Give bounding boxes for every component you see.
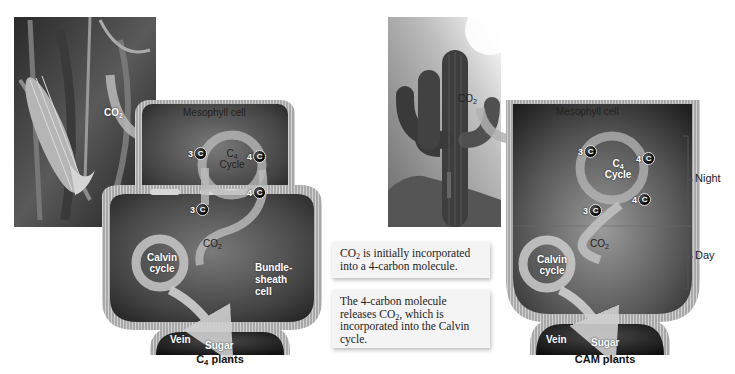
c4-badge-4c-bottom: 4C	[247, 186, 266, 199]
c4-cycle-label: C4 Cycle	[212, 148, 252, 170]
cam-badge-3c-top: 3C	[578, 145, 597, 158]
c4-sugar-label: Sugar	[205, 340, 233, 351]
cam-co2-label: CO2	[458, 93, 477, 104]
c4-badge-3c-top: 3C	[188, 147, 207, 160]
cam-badge-4c-top: 4C	[636, 152, 655, 165]
cam-mesophyll-label: Mesophyll cell	[556, 106, 619, 117]
c4-co2-label: CO2	[104, 107, 123, 118]
cam-badge-3c-bottom: 3C	[583, 204, 602, 217]
c4-badge-3c-bottom: 3C	[190, 203, 209, 216]
c4-calvin-cycle-label: Calvincycle	[140, 252, 184, 274]
cam-sugar-label: Sugar	[591, 337, 619, 348]
cam-plants-caption: CAM plants	[560, 353, 650, 365]
cam-vein-label: Vein	[546, 334, 567, 345]
callout-co2-incorporation: CO2 is initially incorporated into a 4-c…	[332, 242, 490, 278]
c4-plants-caption: C4 plants	[165, 353, 275, 365]
cam-calvin-cycle-label: Calvincycle	[530, 254, 574, 276]
cam-inner-co2-label: CO2	[590, 238, 609, 249]
c4-bundle-sheath-label: Bundle-sheathcell	[255, 262, 292, 298]
c4-badge-4c-top: 4C	[247, 150, 266, 163]
day-label: Day	[695, 249, 715, 261]
night-label: Night	[695, 172, 721, 184]
cactus-photo	[388, 5, 515, 227]
cam-c4-cycle-label: C4 Cycle	[596, 158, 640, 180]
c4-mesophyll-label: Mesophyll cell	[183, 107, 246, 118]
callout-co2-release: The 4-carbon molecule releases CO2, whic…	[332, 290, 490, 348]
cam-badge-4c-bottom: 4C	[632, 193, 651, 206]
c4-vein-label: Vein	[170, 334, 191, 345]
c4-inner-co2-label: CO2	[203, 238, 222, 249]
